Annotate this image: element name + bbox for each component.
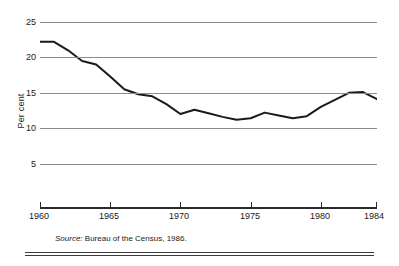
gridline-15 — [40, 93, 377, 94]
x-tick-label-1975: 1975 — [240, 211, 260, 221]
data-series-line — [40, 22, 377, 184]
x-tick-label-1980: 1980 — [310, 211, 330, 221]
x-tick-label-1970: 1970 — [169, 211, 189, 221]
y-axis-title: Per cent — [16, 76, 26, 146]
plot-area — [40, 22, 377, 184]
x-tick-1975 — [251, 202, 252, 209]
x-tick-label-1984: 1984 — [364, 211, 384, 221]
x-axis-line — [40, 207, 377, 209]
y-tick-label-25: 25 — [10, 18, 36, 27]
divider-line-top — [25, 252, 374, 253]
x-tick-label-1965: 1965 — [99, 211, 119, 221]
gridline-10 — [40, 128, 377, 129]
gridline-20 — [40, 57, 377, 58]
divider-line-bottom — [25, 255, 374, 256]
x-tick-label-1960: 1960 — [29, 211, 49, 221]
y-tick-label-5: 5 — [10, 160, 36, 169]
x-tick-1980 — [321, 202, 322, 209]
x-tick-1965 — [110, 202, 111, 209]
chart-figure: 25 20 15 10 5 Per cent 1960 1965 1970 19… — [0, 0, 399, 266]
x-tick-1970 — [180, 202, 181, 209]
y-tick-label-20: 20 — [10, 53, 36, 62]
x-tick-1984 — [376, 202, 377, 209]
gridline-25 — [40, 22, 377, 23]
gridline-5 — [40, 164, 377, 165]
bottom-divider — [25, 252, 374, 256]
source-text: Bureau of the Census, 1986. — [83, 234, 187, 243]
x-axis — [40, 199, 377, 209]
x-tick-1960 — [40, 202, 41, 209]
source-note: Source: Bureau of the Census, 1986. — [55, 234, 187, 244]
y-axis: 25 20 15 10 5 Per cent — [8, 22, 36, 184]
source-label: Source: — [55, 234, 83, 243]
